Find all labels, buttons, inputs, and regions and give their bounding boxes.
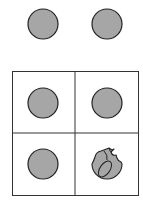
- puzzle-figure: [0, 0, 143, 203]
- grid-cell-2-1-circle: [28, 149, 58, 179]
- grid-2x2: [13, 72, 139, 196]
- grid-cell-2-2-broken-circle: [92, 148, 122, 179]
- grid-cell-1-1-circle: [28, 88, 58, 118]
- top-circle-left: [28, 9, 58, 39]
- top-circle-right: [92, 9, 122, 39]
- grid-cell-1-2-circle: [92, 88, 122, 118]
